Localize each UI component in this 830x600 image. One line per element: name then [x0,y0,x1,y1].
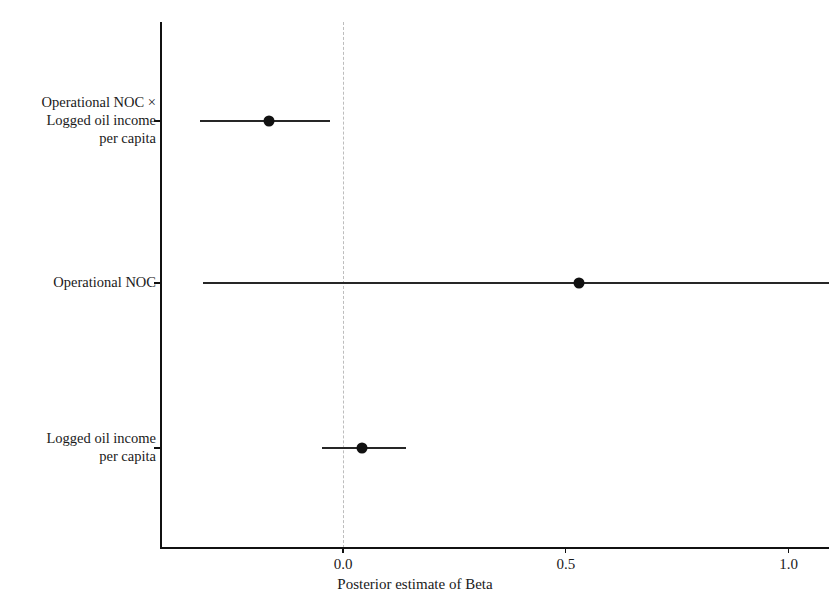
coefficient-plot-figure: Operational NOC × Logged oil income per … [0,0,830,600]
point-estimate-1 [574,278,585,289]
x-axis-tick-label-2: 1.0 [779,556,798,573]
x-axis-tick-label-0: 0.0 [334,556,353,573]
y-axis-label-logged-oil-income: Logged oil income per capita [46,429,156,465]
x-axis-tick-0 [342,547,343,553]
x-axis-tick-2 [788,547,789,553]
point-estimate-2 [357,443,368,454]
point-estimate-0 [264,116,275,127]
zero-reference-line [343,22,344,548]
x-axis-spine [160,547,829,549]
y-axis-label-operational-noc-x-logged-oil-income: Operational NOC × Logged oil income per … [42,93,157,147]
x-axis-title: Posterior estimate of Beta [0,576,830,593]
y-axis-spine [160,22,162,549]
x-axis-tick-1 [565,547,566,553]
y-axis-label-operational-noc: Operational NOC [53,273,156,291]
credible-interval-1 [203,282,829,284]
x-axis-tick-label-1: 0.5 [556,556,575,573]
